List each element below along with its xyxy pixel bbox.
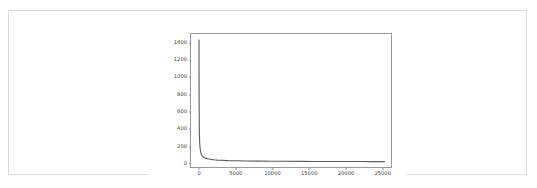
screenshot-root: 0200400600800100012001400 05000100001500…: [0, 0, 537, 188]
line-chart-svg: [191, 34, 391, 167]
x-tick-label: 20000: [338, 171, 355, 176]
y-tick-mark: [189, 94, 192, 95]
x-tick-label: 5000: [229, 171, 242, 176]
matplotlib-figure: 0200400600800100012001400 05000100001500…: [149, 23, 407, 175]
x-tick-label: 10000: [264, 171, 281, 176]
y-tick-label: 1200: [174, 57, 187, 62]
x-tick-label: 25000: [374, 171, 391, 176]
y-tick-label: 0: [184, 161, 187, 166]
y-tick-label: 200: [177, 144, 187, 149]
y-tick-label: 1000: [174, 75, 187, 80]
y-tick-mark: [189, 77, 192, 78]
y-tick-mark: [189, 129, 192, 130]
plot-axes-frame: 0200400600800100012001400 05000100001500…: [190, 33, 392, 168]
y-tick-mark: [189, 42, 192, 43]
y-tick-label: 800: [177, 92, 187, 97]
y-tick-mark: [189, 146, 192, 147]
x-tick-label: 15000: [301, 171, 318, 176]
decay-curve-line: [199, 40, 384, 162]
y-tick-label: 400: [177, 127, 187, 132]
notebook-output-card: 0200400600800100012001400 05000100001500…: [8, 10, 527, 175]
x-tick-label: 0: [197, 171, 200, 176]
y-tick-mark: [189, 111, 192, 112]
y-tick-label: 600: [177, 109, 187, 114]
y-tick-label: 1400: [174, 40, 187, 45]
y-tick-mark: [189, 163, 192, 164]
y-tick-mark: [189, 59, 192, 60]
